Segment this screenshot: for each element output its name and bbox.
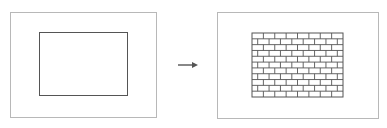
brick-pattern-rectangle bbox=[0, 0, 387, 128]
